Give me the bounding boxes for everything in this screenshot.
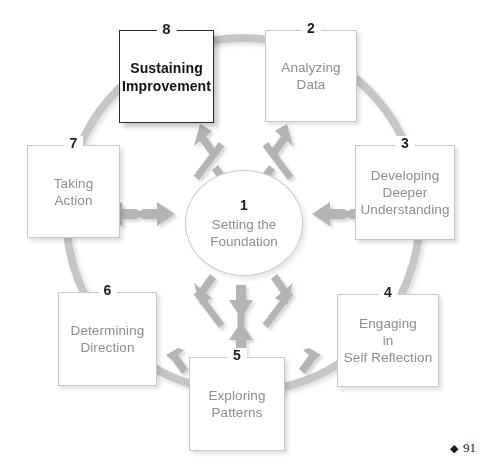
center-node-label: Setting the Foundation: [210, 216, 278, 250]
center-node-number: 1: [240, 197, 248, 213]
page-footer: ◆ 91: [450, 440, 476, 456]
node-label-4: Engaging in Self Reflection: [341, 315, 436, 366]
node-box-2-analyzing-data[interactable]: 2 Analyzing Data: [265, 30, 357, 122]
center-node-setting-the-foundation[interactable]: 1 Setting the Foundation: [185, 170, 303, 276]
node-box-8-sustaining-improvement[interactable]: 8 Sustaining Improvement: [119, 30, 214, 123]
node-label-5: Exploring Patterns: [205, 387, 268, 421]
node-label-8: Sustaining Improvement: [119, 59, 214, 95]
cycle-diagram: 1 Setting the Foundation 8 Sustaining Im…: [0, 0, 486, 464]
node-number-8: 8: [156, 21, 176, 36]
node-number-4: 4: [378, 285, 398, 300]
node-box-4-engaging-in-self-reflection[interactable]: 4 Engaging in Self Reflection: [337, 294, 439, 387]
node-number-3: 3: [395, 136, 415, 151]
node-box-6-determining-direction[interactable]: 6 Determining Direction: [58, 292, 157, 386]
page-number: 91: [463, 440, 476, 456]
node-label-7: Taking Action: [51, 175, 97, 209]
node-label-3: Developing Deeper Understanding: [357, 167, 452, 218]
diamond-icon: ◆: [450, 443, 458, 454]
node-number-7: 7: [64, 136, 84, 151]
node-box-7-taking-action[interactable]: 7 Taking Action: [27, 145, 120, 238]
node-number-2: 2: [301, 21, 321, 36]
arrow-center-to-node-5: [229, 285, 253, 355]
node-number-5: 5: [227, 348, 247, 363]
node-label-6: Determining Direction: [68, 322, 148, 356]
node-box-5-exploring-patterns[interactable]: 5 Exploring Patterns: [189, 357, 285, 451]
node-label-2: Analyzing Data: [278, 59, 343, 93]
node-box-3-developing-deeper-understanding[interactable]: 3 Developing Deeper Understanding: [355, 145, 455, 240]
node-number-6: 6: [98, 283, 118, 298]
